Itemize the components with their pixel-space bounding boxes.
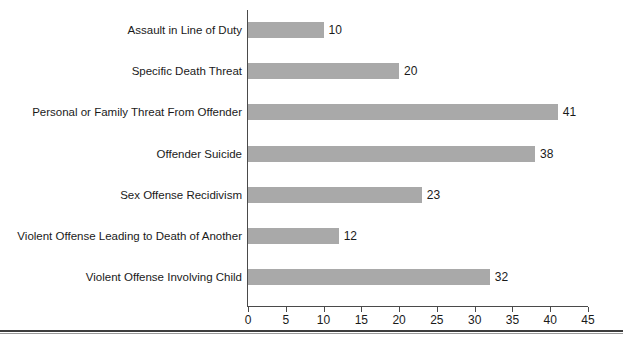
bar-value-label: 41	[563, 104, 576, 120]
x-tick-label: 35	[492, 313, 532, 327]
x-tick-label: 25	[417, 313, 457, 327]
category-label: Specific Death Threat	[132, 63, 242, 79]
x-tick-label: 40	[530, 313, 570, 327]
bar	[248, 187, 422, 203]
bar-row: Sex Offense Recidivism23	[0, 187, 623, 203]
footer-divider	[0, 330, 623, 332]
bar-value-label: 38	[540, 146, 553, 162]
x-tick-mark	[399, 307, 400, 312]
category-label: Personal or Family Threat From Offender	[32, 104, 242, 120]
bar-value-label: 23	[427, 187, 440, 203]
bar-row: Specific Death Threat20	[0, 63, 623, 79]
category-label: Violent Offense Leading to Death of Anot…	[17, 228, 242, 244]
x-tick-mark	[588, 307, 589, 312]
bar-value-label: 20	[404, 63, 417, 79]
bar-row: Offender Suicide38	[0, 146, 623, 162]
bar-row: Assault in Line of Duty10	[0, 22, 623, 38]
x-tick-mark	[324, 307, 325, 312]
x-tick-label: 5	[266, 313, 306, 327]
x-tick-mark	[286, 307, 287, 312]
category-label: Violent Offense Involving Child	[86, 269, 242, 285]
x-tick-label: 20	[379, 313, 419, 327]
horizontal-bar-chart: 051015202530354045 Assault in Line of Du…	[0, 0, 623, 341]
category-label: Offender Suicide	[157, 146, 242, 162]
x-tick-label: 0	[228, 313, 268, 327]
footer-divider-secondary	[0, 333, 623, 334]
bar-value-label: 10	[329, 22, 342, 38]
x-tick-label: 15	[341, 313, 381, 327]
bar	[248, 228, 339, 244]
bar	[248, 146, 535, 162]
bar-row: Personal or Family Threat From Offender4…	[0, 104, 623, 120]
x-tick-mark	[550, 307, 551, 312]
bar	[248, 269, 490, 285]
plot-area: 051015202530354045 Assault in Line of Du…	[0, 0, 623, 341]
x-tick-label: 45	[568, 313, 608, 327]
x-tick-mark	[475, 307, 476, 312]
x-tick-mark	[512, 307, 513, 312]
x-tick-mark	[437, 307, 438, 312]
bar-row: Violent Offense Leading to Death of Anot…	[0, 228, 623, 244]
x-tick-mark	[361, 307, 362, 312]
x-tick-mark	[248, 307, 249, 312]
bar	[248, 22, 324, 38]
x-tick-label: 10	[304, 313, 344, 327]
category-label: Assault in Line of Duty	[128, 22, 242, 38]
bar-row: Violent Offense Involving Child32	[0, 269, 623, 285]
x-tick-label: 30	[455, 313, 495, 327]
x-axis-line	[247, 306, 588, 307]
bar	[248, 63, 399, 79]
bar-value-label: 12	[344, 228, 357, 244]
bar	[248, 104, 558, 120]
bar-value-label: 32	[495, 269, 508, 285]
category-label: Sex Offense Recidivism	[120, 187, 242, 203]
